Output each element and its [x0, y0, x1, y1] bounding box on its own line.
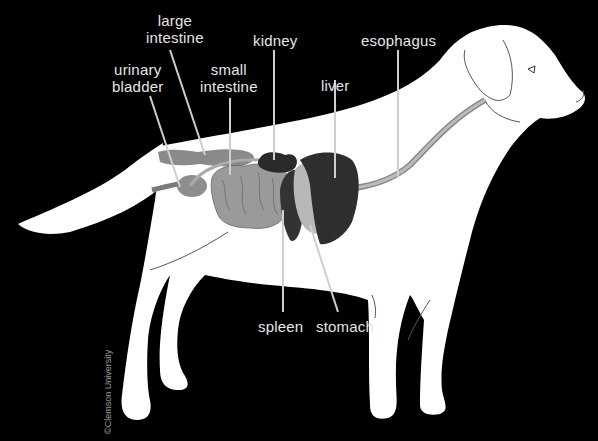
label-liver: liver — [321, 77, 350, 94]
label-spleen: spleen — [258, 318, 303, 335]
label-esophagus: esophagus — [361, 32, 436, 49]
label-kidney: kidney — [253, 32, 298, 49]
dog-anatomy-diagram — [0, 0, 598, 441]
label-large-intestine: large intestine — [146, 12, 204, 46]
small-intestine-organ — [211, 164, 289, 229]
copyright-credit: ©Clemson University — [103, 350, 113, 434]
label-small-intestine: small intestine — [200, 61, 258, 95]
label-stomach: stomach — [316, 318, 374, 335]
label-urinary-bladder: urinary bladder — [112, 61, 163, 95]
urinary-bladder-organ — [177, 175, 207, 197]
